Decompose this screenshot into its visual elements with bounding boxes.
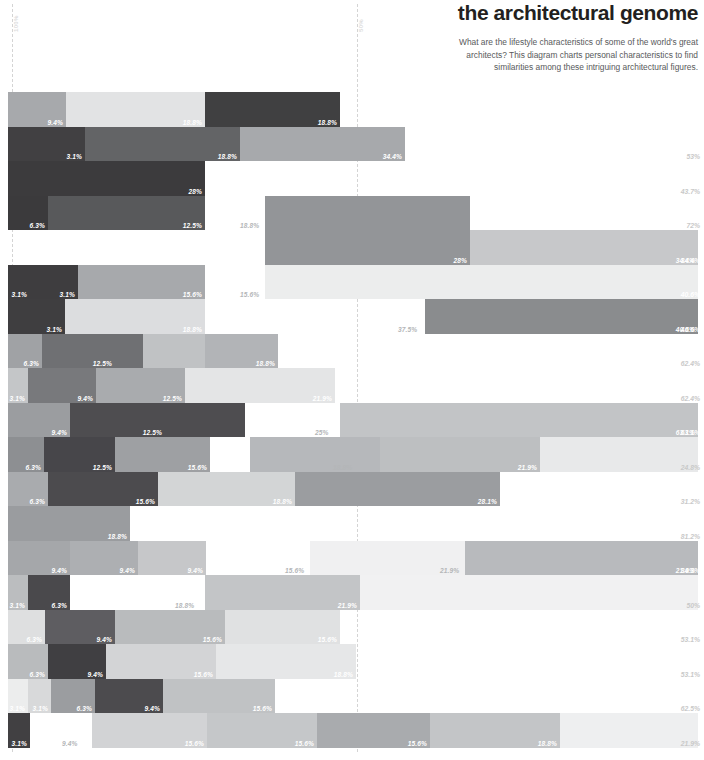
bar-segment — [360, 575, 698, 610]
row-total-label: 81.2% — [681, 533, 700, 540]
chart-row: 3.1%9.4%12.5%21.9%62.4% — [0, 368, 704, 403]
segment-value-label: 15.6% — [163, 291, 202, 298]
segment-value-label: 18.8% — [198, 153, 237, 160]
bar-segment — [340, 403, 698, 438]
segment-value-label: 9.4% — [96, 567, 135, 574]
segment-value-label: 15.6% — [275, 740, 314, 747]
segment-value-label: 6.3% — [6, 671, 45, 678]
segment-value-label: 18.8% — [175, 602, 194, 609]
chart-row: 28%34.4%34.4% — [0, 230, 704, 265]
bar-segment — [265, 196, 470, 231]
chart-row: 9.4%12.5%63.1%25%63.1% — [0, 403, 704, 438]
segment-value-label: 6.3% — [28, 602, 67, 609]
segment-value-label: 21.9% — [318, 602, 357, 609]
segment-value-label: 18.8% — [240, 222, 259, 229]
chart-row: 3.1%6.3%18.8%21.9%50% — [0, 575, 704, 610]
segment-value-label: 18.8% — [333, 464, 352, 471]
row-total-label: 40.6% — [681, 291, 700, 298]
bar-segment — [250, 437, 380, 472]
segment-value-label: 28.1% — [458, 498, 497, 505]
segment-value-label: 28% — [163, 188, 202, 195]
segment-value-label: 9.4% — [54, 395, 93, 402]
segment-value-label: 9.4% — [28, 429, 67, 436]
chart-row: 3.1%18.8%40.6%37.5%40.6% — [0, 299, 704, 334]
infographic-page: the architectural genome What are the li… — [0, 0, 704, 760]
segment-value-label: 34.4% — [363, 153, 402, 160]
segment-value-label: 15.6% — [233, 705, 272, 712]
segment-value-label: 9.4% — [24, 119, 63, 126]
row-total-label: 34.3% — [681, 567, 700, 574]
segment-value-label: 9.4% — [121, 705, 160, 712]
segment-value-label: 15.6% — [285, 567, 304, 574]
segment-value-label: 15.6% — [174, 671, 213, 678]
segment-value-label: 18.8% — [314, 671, 353, 678]
bar-segment — [30, 713, 92, 748]
segment-value-label: 15.6% — [168, 464, 207, 471]
row-total-label: 53.1% — [681, 671, 700, 678]
segment-value-label: 21.9% — [293, 395, 332, 402]
segment-value-label: 12.5% — [73, 360, 112, 367]
segment-value-label: 18.8% — [253, 498, 292, 505]
chart-row: 6.3%12.5%18.8%72% — [0, 196, 704, 231]
segment-value-label: 3.1% — [9, 705, 48, 712]
row-total-label: 53.1% — [681, 636, 700, 643]
chart-row: 9.4%9.4%9.4%15.6%21.9%21.9%34.3% — [0, 541, 704, 576]
segment-value-label: 9.4% — [28, 567, 67, 574]
segment-value-label: 18.8% — [518, 740, 557, 747]
segment-value-label: 9.4% — [64, 671, 103, 678]
chart-row: 3.1%9.4%15.6%15.6%15.6%18.8%21.9% — [0, 713, 704, 748]
chart-row: 6.3%9.4%15.6%18.8%53.1% — [0, 644, 704, 679]
row-total-label: 34.4% — [681, 257, 700, 264]
segment-value-label: 15.6% — [388, 740, 427, 747]
bar-segment — [265, 265, 698, 300]
chart-row: 3.1%3.1%6.3%9.4%15.6%62.5% — [0, 679, 704, 714]
segment-value-label: 12.5% — [123, 429, 162, 436]
segment-value-label: 3.1% — [0, 602, 25, 609]
segment-start-label: 25% — [315, 429, 329, 436]
segment-value-label: 3.1% — [23, 326, 62, 333]
segment-value-label: 15.6% — [183, 636, 222, 643]
segment-value-label: 6.3% — [0, 360, 39, 367]
segment-value-label: 6.3% — [3, 636, 42, 643]
segment-value-label: 18.8% — [163, 119, 202, 126]
row-total-label: 24.8% — [681, 464, 700, 471]
segment-value-label: 3.1% — [43, 153, 82, 160]
row-total-label: 40.6% — [681, 326, 700, 333]
segment-value-label: 15.6% — [116, 498, 155, 505]
segment-value-label: 3.1% — [0, 395, 25, 402]
chart-row: 18.8%81.2% — [0, 506, 704, 541]
row-total-label: 62.4% — [681, 360, 700, 367]
chart-row: 28%43.7% — [0, 161, 704, 196]
row-total-label: 63.1% — [681, 429, 700, 436]
segment-value-label: 12.5% — [163, 222, 202, 229]
segment-value-label: 9.4% — [164, 567, 203, 574]
bar-segment — [115, 334, 143, 369]
chart-row: 6.3%12.5%15.6%18.8%21.9%24.8% — [0, 437, 704, 472]
segment-value-label: 3.1% — [0, 740, 27, 747]
chart-row: 6.3%12.5%18.8%62.4% — [0, 334, 704, 369]
chart-row: 9.4%18.8%18.8% — [0, 92, 704, 127]
segment-value-label: 9.4% — [73, 636, 112, 643]
segment-start-label: 37.5% — [398, 326, 417, 333]
segment-value-label: 3.1% — [36, 291, 75, 298]
segment-value-label: 6.3% — [6, 498, 45, 505]
row-total-label: 72% — [686, 222, 700, 229]
segment-value-label: 9.4% — [62, 740, 77, 747]
segment-value-label: 18.8% — [163, 326, 202, 333]
bar-segment — [165, 403, 245, 438]
chart-row: 6.3%9.4%15.6%15.6%53.1% — [0, 610, 704, 645]
segment-value-label: 12.5% — [143, 395, 182, 402]
segment-value-label: 18.8% — [88, 533, 127, 540]
row-total-label: 62.4% — [681, 395, 700, 402]
chart-row: 3.1%18.8%34.4%53% — [0, 127, 704, 162]
segment-value-label: 6.3% — [6, 222, 45, 229]
chart-row: 3.1%3.1%15.6%15.6%40.6% — [0, 265, 704, 300]
segment-value-label: 3.1% — [0, 291, 27, 298]
row-total-label: 21.9% — [681, 740, 700, 747]
chart-row: 6.3%15.6%18.8%28.1%31.2% — [0, 472, 704, 507]
segment-value-label: 28% — [428, 257, 467, 264]
row-total-label: 62.5% — [681, 705, 700, 712]
segment-value-label: 15.6% — [240, 291, 259, 298]
segment-value-label: 6.3% — [2, 464, 41, 471]
bar-segment — [143, 334, 205, 369]
